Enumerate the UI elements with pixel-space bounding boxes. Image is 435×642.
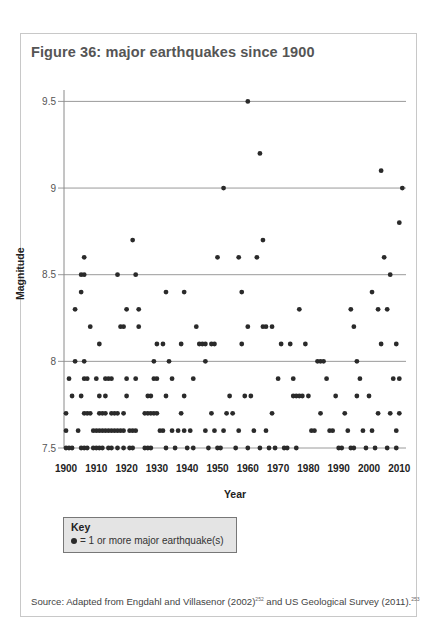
data-point xyxy=(151,359,156,364)
data-point xyxy=(370,428,375,433)
data-point xyxy=(261,238,266,243)
data-point xyxy=(136,324,141,329)
data-point xyxy=(239,342,244,347)
data-point xyxy=(303,342,308,347)
data-point xyxy=(236,255,241,260)
reference-2: 253 xyxy=(411,596,419,602)
x-tick-label: 1900 xyxy=(55,463,78,474)
data-point xyxy=(121,324,126,329)
data-point xyxy=(351,324,356,329)
data-point xyxy=(203,428,208,433)
y-tick-label: 9 xyxy=(50,183,56,194)
data-point xyxy=(361,428,366,433)
y-tick-label: 8 xyxy=(50,356,56,367)
data-point xyxy=(351,446,356,451)
x-tick-label: 1970 xyxy=(267,463,290,474)
data-point xyxy=(227,394,232,399)
data-point xyxy=(67,376,72,381)
data-point xyxy=(394,428,399,433)
data-point xyxy=(155,376,160,381)
data-point xyxy=(94,376,99,381)
data-point xyxy=(155,411,160,416)
data-point xyxy=(394,446,399,451)
data-point xyxy=(279,342,284,347)
data-point xyxy=(130,446,135,451)
data-point xyxy=(312,428,317,433)
data-point xyxy=(182,394,187,399)
data-point xyxy=(130,238,135,243)
data-point xyxy=(103,394,108,399)
data-point xyxy=(288,342,293,347)
data-point xyxy=(88,411,93,416)
data-point xyxy=(248,394,253,399)
data-point xyxy=(385,307,390,312)
y-tick-labels: 7.588.599.5 xyxy=(42,96,56,454)
data-point xyxy=(182,290,187,295)
data-point xyxy=(330,428,335,433)
data-point xyxy=(73,307,78,312)
data-point xyxy=(73,359,78,364)
data-point xyxy=(321,359,326,364)
data-point xyxy=(397,376,402,381)
data-point xyxy=(79,394,84,399)
data-point xyxy=(258,446,263,451)
data-point xyxy=(148,394,153,399)
data-point xyxy=(242,394,247,399)
data-point xyxy=(155,342,160,347)
data-point xyxy=(124,394,129,399)
data-point xyxy=(203,359,208,364)
data-point xyxy=(270,411,275,416)
x-tick-label: 2000 xyxy=(358,463,381,474)
dot-icon xyxy=(71,538,77,544)
data-point xyxy=(179,342,184,347)
data-point xyxy=(136,307,141,312)
data-point xyxy=(397,220,402,225)
data-point xyxy=(70,394,75,399)
data-point xyxy=(345,428,350,433)
data-point xyxy=(215,255,220,260)
data-point xyxy=(133,272,138,277)
data-point xyxy=(179,411,184,416)
data-point xyxy=(297,307,302,312)
data-point xyxy=(379,342,384,347)
data-point xyxy=(391,376,396,381)
x-tick-label: 1990 xyxy=(328,463,351,474)
x-tick-labels: 1900191019201930194019501960197019801990… xyxy=(55,463,411,474)
data-point xyxy=(388,272,393,277)
data-point xyxy=(121,411,126,416)
data-point xyxy=(221,186,226,191)
data-point xyxy=(385,446,390,451)
data-point xyxy=(324,376,329,381)
legend-key: Key = 1 or more major earthquake(s) xyxy=(63,517,237,553)
data-point xyxy=(245,324,250,329)
data-point xyxy=(70,446,75,451)
data-point xyxy=(397,411,402,416)
data-point xyxy=(264,324,269,329)
data-point xyxy=(100,446,105,451)
data-point xyxy=(115,411,120,416)
key-item-label: = 1 or more major earthquake(s) xyxy=(80,535,224,546)
x-tick-label: 1950 xyxy=(206,463,229,474)
data-point xyxy=(236,428,241,433)
data-point xyxy=(191,446,196,451)
data-point xyxy=(233,446,238,451)
data-point xyxy=(370,290,375,295)
data-point xyxy=(212,428,217,433)
reference-1: 252 xyxy=(255,596,263,602)
data-point xyxy=(264,428,269,433)
data-point xyxy=(270,324,275,329)
data-point xyxy=(206,446,211,451)
data-point xyxy=(170,376,175,381)
data-point xyxy=(245,446,250,451)
data-point xyxy=(188,428,193,433)
data-point xyxy=(373,446,378,451)
data-point xyxy=(218,446,223,451)
data-point xyxy=(64,428,69,433)
data-point xyxy=(185,446,190,451)
data-point xyxy=(82,359,87,364)
data-point xyxy=(333,394,338,399)
data-point xyxy=(85,376,90,381)
data-point xyxy=(82,255,87,260)
data-point xyxy=(176,428,181,433)
y-tick-label: 8.5 xyxy=(42,269,56,280)
